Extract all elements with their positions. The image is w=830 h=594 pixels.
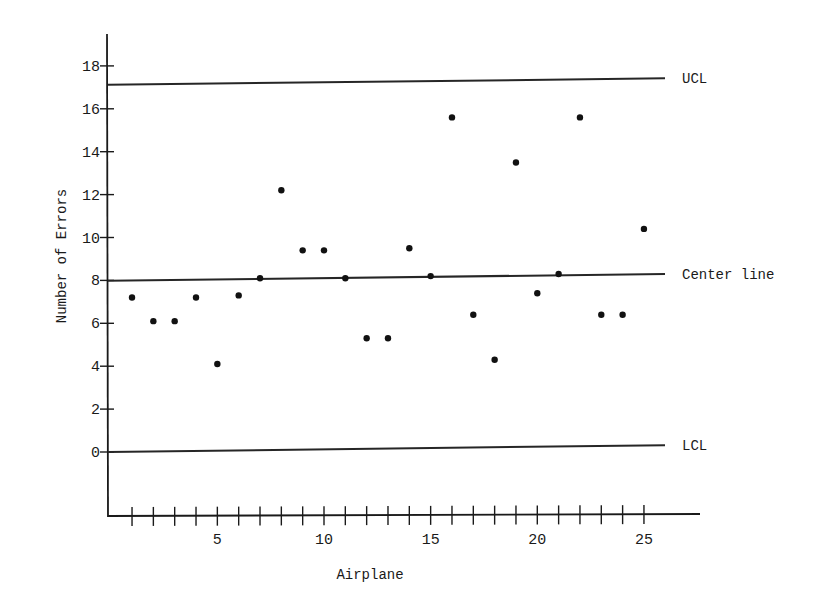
data-point: [641, 226, 647, 232]
y-tick-label: 0: [91, 445, 100, 462]
y-tick-label: 12: [82, 188, 100, 205]
reference-label-lcl: LCL: [682, 438, 707, 454]
x-tick-label: 25: [635, 532, 653, 549]
data-point: [577, 114, 583, 120]
data-point: [555, 271, 561, 277]
y-tick-label: 10: [82, 231, 100, 248]
reference-line-lcl: [108, 445, 665, 452]
data-point: [619, 312, 625, 318]
data-point: [406, 245, 412, 251]
data-point: [342, 275, 348, 281]
y-tick-label: 16: [82, 102, 100, 119]
data-point: [321, 247, 327, 253]
x-tick-label: 10: [315, 532, 333, 549]
x-tick-label: 15: [422, 532, 440, 549]
x-tick-label: 5: [213, 532, 222, 549]
data-point: [513, 159, 519, 165]
data-point: [598, 312, 604, 318]
y-tick-label: 8: [91, 273, 100, 290]
y-axis-label: Number of Errors: [54, 189, 70, 323]
control-chart: 024681012141618 510152025 UCLCenter line…: [0, 0, 830, 594]
data-points: [129, 114, 647, 367]
data-point: [278, 187, 284, 193]
reference-label-ucl: UCL: [682, 71, 707, 87]
data-point: [491, 357, 497, 363]
reference-line-ucl: [108, 78, 665, 84]
reference-lines: UCLCenter lineLCL: [108, 71, 774, 454]
y-tick-label: 6: [91, 316, 100, 333]
reference-line-center: [108, 274, 665, 281]
data-point: [129, 294, 135, 300]
data-point: [470, 312, 476, 318]
data-point: [385, 335, 391, 341]
x-ticks: 510152025: [132, 505, 653, 549]
data-point: [449, 114, 455, 120]
x-axis-label: Airplane: [336, 567, 403, 583]
y-tick-label: 2: [91, 402, 100, 419]
x-tick-label: 20: [528, 532, 546, 549]
data-point: [363, 335, 369, 341]
y-tick-label: 4: [91, 359, 100, 376]
data-point: [171, 318, 177, 324]
y-axis: [107, 34, 108, 517]
data-point: [534, 290, 540, 296]
data-point: [214, 361, 220, 367]
y-tick-label: 14: [82, 145, 100, 162]
data-point: [193, 294, 199, 300]
y-tick-label: 18: [82, 59, 100, 76]
data-point: [235, 292, 241, 298]
data-point: [299, 247, 305, 253]
data-point: [427, 273, 433, 279]
data-point: [257, 275, 263, 281]
y-ticks: 024681012141618: [82, 59, 114, 462]
x-axis: [108, 514, 700, 516]
reference-label-center: Center line: [682, 267, 774, 283]
data-point: [150, 318, 156, 324]
